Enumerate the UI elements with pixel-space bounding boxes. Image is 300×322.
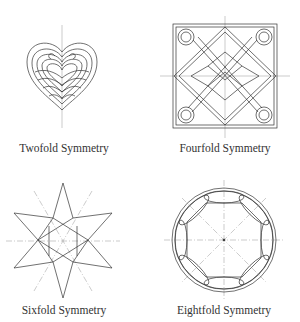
eightfold-figure	[164, 180, 284, 300]
eightfold-caption: Eightfold Symmetry	[177, 304, 271, 316]
twofold-figure	[27, 25, 97, 128]
fourfold-caption: Fourfold Symmetry	[179, 142, 270, 154]
symmetry-diagram	[0, 0, 300, 322]
fourfold-figure	[160, 16, 290, 138]
sixfold-figure	[6, 183, 120, 298]
sixfold-caption: Sixfold Symmetry	[22, 304, 107, 316]
twofold-caption: Twofold Symmetry	[19, 142, 109, 154]
symmetry-axes	[6, 191, 120, 291]
